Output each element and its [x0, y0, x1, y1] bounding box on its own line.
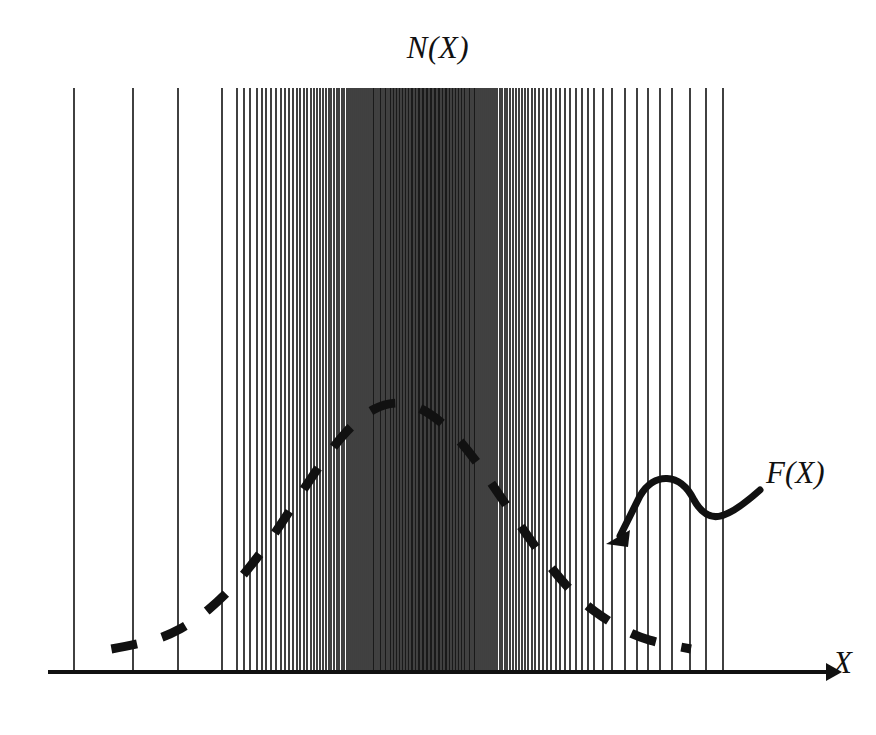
distribution-figure-canvas: [0, 0, 876, 735]
sample-tick-lines: [74, 88, 723, 672]
curve-callout-arrow: [606, 478, 760, 547]
x-axis-label: X: [833, 645, 852, 681]
density-curve-dashed: [111, 403, 691, 649]
density-curve-label: F(X): [766, 455, 825, 491]
density-curve-path: [111, 403, 691, 649]
plot-title: N(X): [0, 30, 876, 66]
figure-container: N(X) F(X) X: [0, 0, 876, 735]
